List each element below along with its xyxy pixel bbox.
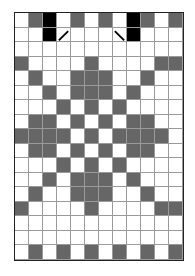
grid-cell-16-9 [141,245,155,260]
grid-cell-1-0 [15,28,29,43]
grid-cell-10-3 [57,158,71,173]
grid-cell-8-3 [57,129,71,144]
grid-cell-9-2 [43,144,57,159]
grid-cell-5-3 [57,86,71,101]
grid-cell-3-9 [141,57,155,72]
grid-cell-15-7 [113,231,127,246]
grid-cell-14-1 [29,216,43,231]
grid-cell-2-1 [29,42,43,57]
grid-cell-6-8 [127,100,141,115]
grid-cell-16-5 [85,245,99,260]
grid-cell-12-9 [141,187,155,202]
grid-cell-2-2 [43,42,57,57]
grid-cell-5-5 [85,86,99,101]
grid-cell-14-9 [141,216,155,231]
grid-cell-15-0 [15,231,29,246]
grid-cell-3-5 [85,57,99,72]
grid-cell-8-6 [99,129,113,144]
grid-cell-6-3 [57,100,71,115]
grid-cell-8-9 [141,129,155,144]
grid-cell-4-8 [127,71,141,86]
grid-cell-14-2 [43,216,57,231]
grid-cell-9-8 [127,144,141,159]
grid-cell-12-7 [113,187,127,202]
grid-cell-0-2 [43,13,57,28]
grid-cell-2-0 [15,42,29,57]
grid-cell-1-7 [113,28,127,43]
grid-cell-16-2 [43,245,57,260]
grid-cell-12-6 [99,187,113,202]
grid-cell-16-10 [155,245,169,260]
grid-cell-7-1 [29,115,43,130]
grid-cell-10-8 [127,158,141,173]
grid-cell-10-7 [113,158,127,173]
grid-cell-13-1 [29,202,43,217]
grid-cell-9-3 [57,144,71,159]
grid-cell-10-2 [43,158,57,173]
grid-cell-1-1 [29,28,43,43]
grid-cell-9-1 [29,144,43,159]
grid-cell-1-8 [127,28,141,43]
grid-cell-9-5 [85,144,99,159]
grid-cell-0-5 [85,13,99,28]
grid-cell-14-8 [127,216,141,231]
grid-cell-10-4 [71,158,85,173]
grid-cell-11-10 [155,173,169,188]
grid-cell-3-0 [15,57,29,72]
grid-cell-16-4 [71,245,85,260]
grid-cell-3-2 [43,57,57,72]
grid-cell-5-11 [169,86,183,101]
grid-cell-9-0 [15,144,29,159]
grid-cell-6-6 [99,100,113,115]
grid-cell-10-6 [99,158,113,173]
grid-cell-11-4 [71,173,85,188]
grid-cell-7-8 [127,115,141,130]
grid-cell-4-3 [57,71,71,86]
grid-cell-10-9 [141,158,155,173]
grid-cell-0-0 [15,13,29,28]
grid-cell-8-11 [169,129,183,144]
grid-cell-15-2 [43,231,57,246]
grid-cell-15-8 [127,231,141,246]
grid-cell-8-8 [127,129,141,144]
grid-cell-5-7 [113,86,127,101]
grid-cell-13-4 [71,202,85,217]
grid-cell-1-10 [155,28,169,43]
grid-cell-2-6 [99,42,113,57]
grid-cell-0-6 [99,13,113,28]
grid-cell-6-11 [169,100,183,115]
grid-cell-11-2 [43,173,57,188]
grid-cell-14-3 [57,216,71,231]
grid-cell-8-4 [71,129,85,144]
grid-cell-8-1 [29,129,43,144]
grid-cell-5-1 [29,86,43,101]
grid-cell-4-0 [15,71,29,86]
grid-cell-5-10 [155,86,169,101]
grid-cell-0-1 [29,13,43,28]
grid-cell-13-0 [15,202,29,217]
grid-cell-7-3 [57,115,71,130]
grid-cell-14-0 [15,216,29,231]
grid-cell-3-1 [29,57,43,72]
grid-cell-15-6 [99,231,113,246]
grid-cell-11-7 [113,173,127,188]
grid-cell-12-1 [29,187,43,202]
grid-cell-11-9 [141,173,155,188]
grid-cell-16-8 [127,245,141,260]
grid-cell-3-8 [127,57,141,72]
grid-cell-8-5 [85,129,99,144]
grid-cell-2-9 [141,42,155,57]
grid-cell-4-11 [169,71,183,86]
grid-cell-13-10 [155,202,169,217]
grid-cell-13-2 [43,202,57,217]
grid-cell-12-8 [127,187,141,202]
grid-cell-5-8 [127,86,141,101]
grid-cell-4-7 [113,71,127,86]
grid-cell-9-7 [113,144,127,159]
grid-cell-10-1 [29,158,43,173]
grid-cell-5-0 [15,86,29,101]
grid-cell-1-6 [99,28,113,43]
grid-cell-12-4 [71,187,85,202]
grid-cell-14-10 [155,216,169,231]
grid-cell-5-9 [141,86,155,101]
